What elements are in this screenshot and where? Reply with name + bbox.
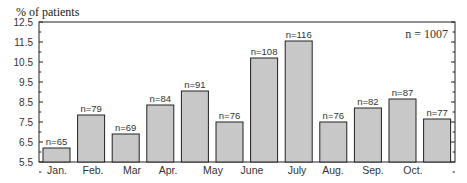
bar: n=84	[147, 93, 174, 162]
bar-n-label: n=108	[251, 46, 278, 57]
y-tick-label: 9.5	[19, 77, 33, 88]
y-tick-label: 5.5	[19, 157, 33, 168]
x-axis-labels: Jan.Feb.MarApr.MayJuneJulyAug.Sep.Oct.	[47, 164, 423, 176]
bar-n-label: n=87	[392, 87, 413, 98]
x-tick-label: Apr.	[159, 164, 178, 176]
y-tick-label: 10.5	[14, 57, 34, 68]
y-tick-label: 12.5	[14, 17, 34, 28]
bar: n=76	[216, 110, 243, 162]
bar-n-label: n=77	[426, 107, 447, 118]
x-tick-label: May	[203, 164, 224, 176]
bar: n=82	[354, 96, 381, 162]
bar: n=77	[424, 107, 451, 162]
bar-n-label: n=69	[115, 122, 136, 133]
x-tick-label: Mar	[123, 164, 142, 176]
y-tick-label: 6.5	[19, 137, 33, 148]
bar-n-label: n=79	[80, 103, 101, 114]
bar-n-label: n=116	[286, 29, 312, 40]
bar: n=116	[285, 29, 312, 162]
bar: n=87	[389, 87, 416, 162]
bar-n-label: n=65	[46, 136, 67, 147]
y-tick-label: 7.5	[19, 117, 33, 128]
bars: n=65n=79n=69n=84n=91n=76n=108n=116n=76n=…	[43, 29, 451, 162]
bar-n-label: n=82	[357, 96, 378, 107]
bar: n=91	[181, 79, 208, 162]
y-tick-label: 11.5	[14, 37, 33, 48]
bar-n-label: n=91	[184, 79, 205, 90]
bar: n=108	[251, 46, 278, 162]
x-tick-label: Jan.	[47, 164, 67, 176]
total-n-annotation: n = 1007	[405, 27, 448, 41]
bar: n=79	[78, 103, 105, 162]
x-tick-label: Oct.	[403, 164, 422, 176]
x-tick-label: Aug.	[322, 164, 344, 176]
bar: n=76	[320, 110, 347, 162]
bar-n-label: n=84	[150, 93, 171, 104]
bar-n-label: n=76	[219, 110, 240, 121]
y-tick-label: 8.5	[19, 97, 33, 108]
x-tick-label: Feb.	[82, 164, 103, 176]
bar: n=69	[112, 122, 139, 162]
x-tick-label: Sep.	[362, 164, 384, 176]
x-tick-label: June	[241, 164, 264, 176]
x-tick-label: July	[288, 164, 307, 176]
bar-chart: % of patients 5.56.57.58.59.510.511.512.…	[0, 0, 467, 183]
bar-n-label: n=76	[323, 110, 344, 121]
bar: n=65	[43, 136, 70, 162]
